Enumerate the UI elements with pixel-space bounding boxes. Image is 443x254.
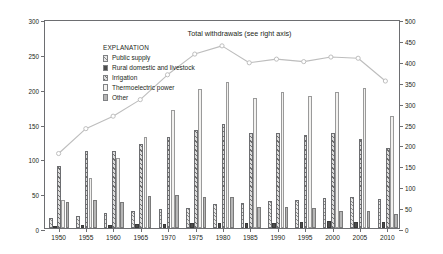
- bar-thermoelectric-power: [308, 96, 312, 228]
- left-tick: [41, 126, 45, 127]
- legend-items: Public supplyRural domestic and livestoc…: [103, 55, 195, 101]
- bar-public-supply: [159, 209, 163, 228]
- bar-public-supply: [104, 213, 108, 228]
- legend-item-label: Other: [112, 95, 128, 102]
- x-tick: [223, 228, 224, 232]
- bar-rural-domestic-and-livestock: [163, 224, 167, 228]
- x-tick: [360, 228, 361, 232]
- legend-item: Thermoelectric power: [103, 84, 195, 91]
- left-tick-label: 300: [28, 18, 39, 25]
- x-tick-label: 2005: [353, 234, 368, 241]
- bar-irrigation: [276, 133, 280, 228]
- bar-public-supply: [76, 216, 80, 228]
- bar-other: [394, 214, 398, 228]
- bar-rural-domestic-and-livestock: [245, 223, 249, 228]
- left-tick: [41, 230, 45, 231]
- bar-rural-domestic-and-livestock: [272, 223, 276, 229]
- right-tick-label: 500: [405, 18, 416, 25]
- bar-thermoelectric-power: [253, 98, 257, 228]
- x-tick: [305, 228, 306, 232]
- left-tick: [41, 160, 45, 161]
- bar-rural-domestic-and-livestock: [354, 222, 358, 228]
- bar-thermoelectric-power: [198, 89, 202, 228]
- x-tick-label: 1950: [51, 234, 66, 241]
- bar-group: [322, 21, 343, 228]
- x-tick-label: 2000: [325, 234, 340, 241]
- bar-public-supply: [268, 201, 272, 228]
- legend-swatch-icon: [103, 65, 108, 72]
- x-tick-label: 1990: [270, 234, 285, 241]
- x-tick-label: 1955: [79, 234, 94, 241]
- right-tick-label: 350: [405, 80, 416, 87]
- legend-swatch-icon: [103, 94, 108, 101]
- bar-other: [175, 195, 179, 228]
- left-tick-label: 0: [35, 227, 39, 234]
- bar-irrigation: [331, 133, 335, 228]
- bar-public-supply: [295, 200, 299, 228]
- bar-public-supply: [323, 198, 327, 228]
- bar-irrigation: [194, 130, 198, 228]
- legend-item: Public supply: [103, 55, 195, 62]
- left-tick-label: 100: [28, 157, 39, 164]
- bar-rural-domestic-and-livestock: [108, 225, 112, 228]
- bar-thermoelectric-power: [61, 200, 65, 228]
- x-tick-label: 1960: [106, 234, 121, 241]
- right-tick: [399, 63, 403, 64]
- bar-other: [203, 197, 207, 228]
- legend: EXPLANATION Public supplyRural domestic …: [103, 45, 195, 104]
- legend-item: Irrigation: [103, 75, 195, 82]
- right-tick: [399, 126, 403, 127]
- bar-group: [350, 21, 371, 228]
- bar-group: [268, 21, 289, 228]
- x-tick: [196, 228, 197, 232]
- bar-rural-domestic-and-livestock: [382, 222, 386, 228]
- left-tick-label: 200: [28, 87, 39, 94]
- bar-rural-domestic-and-livestock: [81, 225, 85, 228]
- bar-other: [285, 207, 289, 228]
- bar-public-supply: [350, 197, 354, 228]
- bar-rural-domestic-and-livestock: [53, 226, 57, 229]
- bar-group: [377, 21, 398, 228]
- bar-public-supply: [186, 208, 190, 228]
- bar-public-supply: [131, 211, 135, 228]
- legend-item-label: Thermoelectric power: [112, 85, 175, 92]
- right-tick-label: 200: [405, 143, 416, 150]
- bar-rural-domestic-and-livestock: [135, 224, 139, 228]
- x-tick: [113, 228, 114, 232]
- x-tick: [141, 228, 142, 232]
- bar-rural-domestic-and-livestock: [190, 223, 194, 228]
- right-tick-label: 50: [405, 206, 412, 213]
- x-tick-label: 1985: [243, 234, 258, 241]
- bar-group: [48, 21, 69, 228]
- bar-irrigation: [112, 151, 116, 228]
- x-tick-label: 1970: [161, 234, 176, 241]
- bar-irrigation: [85, 151, 89, 228]
- bar-irrigation: [386, 148, 390, 228]
- legend-swatch-icon: [103, 84, 108, 91]
- right-tick-label: 0: [405, 227, 409, 234]
- bar-thermoelectric-power: [171, 110, 175, 228]
- right-tick: [399, 188, 403, 189]
- right-tick-label: 150: [405, 164, 416, 171]
- right-tick: [399, 209, 403, 210]
- bar-irrigation: [304, 135, 308, 228]
- bar-thermoelectric-power: [390, 116, 394, 228]
- legend-swatch-icon: [103, 75, 108, 82]
- right-tick: [399, 42, 403, 43]
- left-tick-label: 150: [28, 122, 39, 129]
- bar-other: [230, 197, 234, 228]
- bar-public-supply: [378, 199, 382, 228]
- x-tick: [278, 228, 279, 232]
- bar-other: [93, 200, 97, 228]
- x-tick: [168, 228, 169, 232]
- bar-thermoelectric-power: [226, 82, 230, 228]
- bar-irrigation: [167, 137, 171, 228]
- legend-item-label: Public supply: [112, 55, 150, 62]
- right-tick-label: 400: [405, 59, 416, 66]
- bar-thermoelectric-power: [281, 92, 285, 228]
- left-tick-label: 250: [28, 52, 39, 59]
- right-tick-label: 300: [405, 101, 416, 108]
- x-tick-label: 1965: [134, 234, 149, 241]
- bar-thermoelectric-power: [144, 137, 148, 228]
- bar-public-supply: [213, 204, 217, 228]
